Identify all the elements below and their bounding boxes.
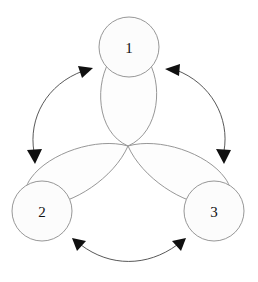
arrow-1-3-head-top <box>165 64 180 76</box>
node-3-label: 3 <box>210 204 218 220</box>
arrow-1-2-head-bottom <box>27 149 42 164</box>
arrow-2-3-head-right <box>172 238 186 251</box>
diagram-svg: 1 2 3 node-1 --> node-3 --> <box>0 0 258 282</box>
node-1-label: 1 <box>125 40 133 56</box>
arrow-1-3-path <box>176 70 225 151</box>
arrow-2-3[interactable] <box>72 238 186 262</box>
diagram-canvas: 1 2 3 node-1 --> node-3 --> <box>0 0 258 282</box>
arrow-2-3-path <box>81 245 177 262</box>
node-2-label: 2 <box>38 204 46 220</box>
arrow-1-2-head-top <box>78 66 93 78</box>
arrow-1-3-head-bottom <box>216 149 231 164</box>
arrow-2-3-head-left <box>72 238 86 251</box>
arrow-1-2-path <box>33 71 83 152</box>
